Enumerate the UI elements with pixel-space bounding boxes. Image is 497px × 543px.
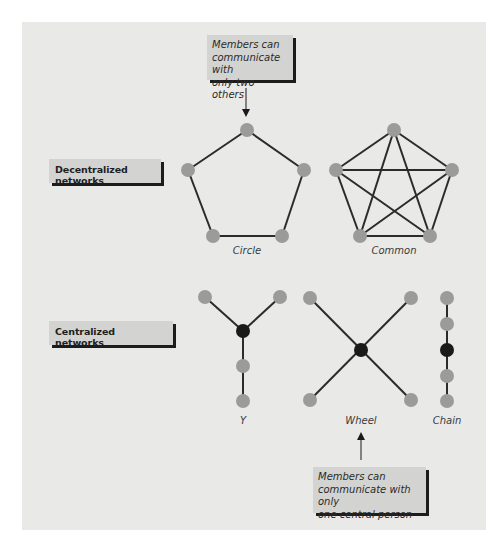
node: [440, 317, 454, 331]
node: [440, 369, 454, 383]
node: [275, 229, 289, 243]
node: [198, 290, 212, 304]
node: [236, 394, 250, 408]
node: [297, 163, 311, 177]
node: [329, 163, 343, 177]
node: [404, 393, 418, 407]
node: [240, 123, 254, 137]
chain-label: Chain: [433, 415, 462, 426]
circle-label: Circle: [233, 245, 261, 256]
node: [236, 359, 250, 373]
y-label: Y: [240, 415, 247, 426]
node: [206, 229, 220, 243]
node: [423, 229, 437, 243]
node: [440, 291, 454, 305]
network-diagrams: Circle Common Y: [0, 0, 497, 543]
circle-network: [188, 130, 304, 236]
node: [181, 163, 195, 177]
node: [445, 163, 459, 177]
common-label: Common: [371, 245, 416, 256]
central-node: [354, 343, 368, 357]
node: [440, 394, 454, 408]
wheel-label: Wheel: [345, 415, 377, 426]
node: [303, 291, 317, 305]
node: [273, 290, 287, 304]
central-node: [440, 343, 454, 357]
node: [303, 393, 317, 407]
node: [353, 229, 367, 243]
common-network: [336, 130, 452, 236]
central-node: [236, 324, 250, 338]
y-network: [205, 297, 280, 401]
common-network-nodes: [329, 123, 459, 243]
circle-network-nodes: [181, 123, 311, 243]
node: [404, 291, 418, 305]
node: [387, 123, 401, 137]
